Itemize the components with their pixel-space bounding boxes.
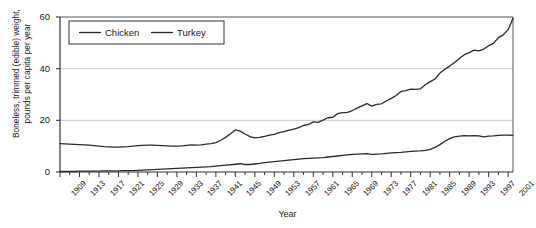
legend-label: Chicken <box>105 27 139 38</box>
legend: ChickenTurkey <box>69 21 224 44</box>
y-tick-label: 60 <box>28 11 50 22</box>
x-axis-title: Year <box>60 209 515 219</box>
legend-label: Turkey <box>177 27 206 38</box>
y-tick-label: 20 <box>28 114 50 125</box>
gridlines <box>60 69 513 121</box>
y-tick-label: 40 <box>28 63 50 74</box>
y-tick-label: 0 <box>28 166 50 177</box>
